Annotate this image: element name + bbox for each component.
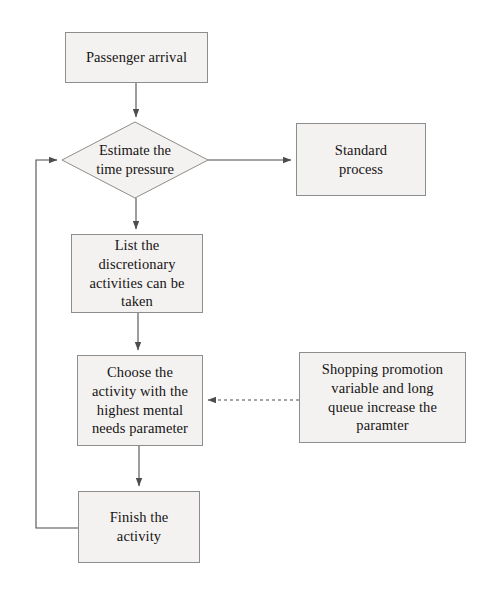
- node-shopping-promotion[interactable]: Shopping promotion variable and long que…: [299, 352, 466, 443]
- flowchart-canvas: Passenger arrival Estimate the time pres…: [0, 0, 494, 596]
- edge-finish-to-estimate-loop: [36, 160, 78, 528]
- node-choose-activity-label: Choose the activity with the highest men…: [78, 363, 202, 437]
- node-shopping-promotion-label: Shopping promotion variable and long que…: [300, 360, 465, 434]
- node-passenger-arrival[interactable]: Passenger arrival: [65, 32, 208, 83]
- node-estimate-time-pressure-label: Estimate the time pressure: [96, 141, 174, 178]
- node-passenger-arrival-label: Passenger arrival: [66, 48, 207, 67]
- node-list-activities-label: List the discretionary activities can be…: [72, 236, 202, 310]
- node-finish-activity[interactable]: Finish the activity: [78, 491, 200, 563]
- node-choose-activity[interactable]: Choose the activity with the highest men…: [77, 355, 203, 446]
- node-standard-process[interactable]: Standard process: [296, 123, 426, 196]
- node-standard-process-label: Standard process: [297, 141, 425, 178]
- node-estimate-time-pressure[interactable]: Estimate the time pressure: [62, 122, 208, 198]
- node-finish-activity-label: Finish the activity: [79, 508, 199, 545]
- node-list-activities[interactable]: List the discretionary activities can be…: [71, 234, 203, 313]
